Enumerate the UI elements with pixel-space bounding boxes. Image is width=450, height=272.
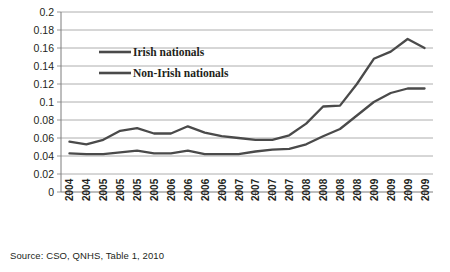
x-axis-tick-label: 2006 — [200, 178, 211, 201]
data-series — [69, 39, 424, 154]
x-axis-tick-label: 2007 — [234, 178, 245, 201]
x-axis-tick-label: 2006 — [166, 178, 177, 201]
x-axis-tick-label: 2009 — [403, 178, 414, 201]
y-axis-tick-label: 0.16 — [34, 42, 55, 54]
y-axis-tick-label: 0.2 — [39, 6, 54, 18]
x-axis-tick-label: 2007 — [267, 178, 278, 201]
x-axis-tick-label: 2005 — [149, 178, 160, 201]
legend-label-2: Non-Irish nationals — [133, 67, 229, 79]
line-chart-svg: 00.020.040.060.080.10.120.140.160.180.2 … — [0, 0, 450, 250]
x-axis-tick-label: 2006 — [217, 178, 228, 201]
x-axis-tick-label: 2007 — [284, 178, 295, 201]
y-axis-tick-label: 0.1 — [39, 96, 54, 108]
series-line-non-irish-nationals — [69, 39, 424, 144]
y-axis-tick-label: 0.06 — [34, 132, 55, 144]
y-axis-tick-label: 0.14 — [34, 60, 55, 72]
y-axis-tick-label: 0.12 — [34, 78, 55, 90]
x-axis-tick-label: 2008 — [335, 178, 346, 201]
x-axis-tick-label: 2009 — [386, 178, 397, 201]
x-axis-tick-label: 2009 — [369, 178, 380, 201]
series-line-irish-nationals — [69, 89, 424, 155]
x-axis-tick-label: 2008 — [301, 178, 312, 201]
x-axis-tick-label: 2009 — [420, 178, 431, 201]
x-axis-tick-label: 2004 — [64, 178, 75, 201]
x-axis-tick-label: 2005 — [98, 178, 109, 201]
x-axis-tick-label: 2008 — [352, 178, 363, 201]
x-axis-tick-label: 2005 — [115, 178, 126, 201]
chart-figure: 00.020.040.060.080.10.120.140.160.180.2 … — [0, 0, 450, 272]
x-axis-tick-label: 2004 — [81, 178, 92, 201]
source-caption: Source: CSO, QNHS, Table 1, 2010 — [10, 250, 164, 261]
x-axis-labels: 2004200420052005200520052006200620062006… — [64, 178, 430, 201]
y-axis-tick-label: 0.04 — [34, 150, 55, 162]
x-axis-tick-label: 2007 — [250, 178, 261, 201]
y-axis-labels: 00.020.040.060.080.10.120.140.160.180.2 — [34, 6, 55, 198]
y-axis-tick-label: 0.08 — [34, 114, 55, 126]
y-axis-tick-label: 0 — [48, 186, 54, 198]
gridlines — [57, 12, 433, 192]
x-axis-tick-label: 2006 — [183, 178, 194, 201]
y-axis-tick-label: 0.18 — [34, 24, 55, 36]
legend-label-1: Irish nationals — [133, 46, 205, 58]
y-axis-tick-label: 0.02 — [34, 168, 55, 180]
x-axis-tick-label: 2005 — [132, 178, 143, 201]
x-axis-tick-label: 2008 — [318, 178, 329, 201]
chart-legend: Irish nationalsNon-Irish nationals — [99, 46, 229, 79]
